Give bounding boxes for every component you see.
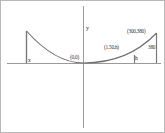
top-right-point-label: (300,380) xyxy=(127,29,146,34)
x-axis-label: x xyxy=(28,58,31,64)
figure-canvas xyxy=(1,1,165,133)
origin-point-label: (0,0) xyxy=(70,55,79,60)
height-380-label: 380 xyxy=(148,45,155,50)
parabola-figure: y x (0,0) (1.50,h) (300,380) h 380 xyxy=(0,0,165,133)
y-axis-label: y xyxy=(86,25,89,31)
mid-point-label: (1.50,h) xyxy=(104,45,119,50)
height-h-label: h xyxy=(135,56,138,62)
